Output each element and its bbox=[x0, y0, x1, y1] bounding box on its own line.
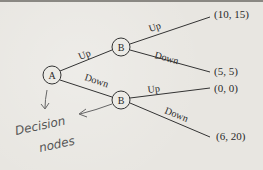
edge-label-b1-down: Down bbox=[153, 49, 179, 66]
edge-label-b1-up: Up bbox=[147, 20, 162, 34]
node-b-upper: B bbox=[112, 38, 130, 56]
payoff-t4: (6, 20) bbox=[216, 130, 246, 143]
annotation-line1: Decision bbox=[14, 114, 67, 138]
game-tree: A B B Up Down Up Down Up Down (10, 15) (… bbox=[0, 0, 263, 170]
edge-label-b2-down: Down bbox=[163, 105, 190, 124]
payoff-t2: (5, 5) bbox=[214, 65, 238, 78]
svg-text:B: B bbox=[118, 95, 125, 106]
node-b-lower: B bbox=[112, 91, 130, 109]
edge-label-b2-up: Up bbox=[147, 83, 160, 95]
arrow-to-a-icon bbox=[45, 90, 47, 108]
payoff-t1: (10, 15) bbox=[214, 8, 249, 21]
payoff-t3: (0, 0) bbox=[214, 82, 238, 95]
edge-label-a-down: Down bbox=[83, 71, 110, 89]
annotation-line2: nodes bbox=[38, 134, 76, 155]
svg-text:B: B bbox=[118, 42, 125, 53]
annotation-arrows bbox=[41, 90, 112, 117]
svg-text:A: A bbox=[48, 70, 56, 81]
arrow-to-b-icon bbox=[80, 104, 112, 114]
node-a: A bbox=[43, 66, 61, 84]
edge-label-a-up: Up bbox=[77, 47, 92, 62]
edge-b1-up bbox=[130, 17, 210, 44]
edge-b2-up bbox=[130, 88, 210, 98]
